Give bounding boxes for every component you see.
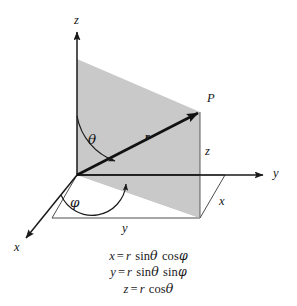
equation-z-arg1: θ xyxy=(166,281,174,296)
equation-z: z=r cosθ xyxy=(0,281,297,297)
equation-x-coef: r xyxy=(126,249,131,263)
equation-z-lhs: z xyxy=(124,282,129,296)
equation-y-arg1: θ xyxy=(151,264,159,279)
equation-y-fn1: sin xyxy=(135,265,151,279)
equation-z-coef: r xyxy=(140,282,145,296)
z-axis-label: z xyxy=(74,14,79,27)
point-p-label: P xyxy=(207,92,215,105)
z-component-label: z xyxy=(205,145,210,158)
equation-x-fn2: cos xyxy=(161,249,179,263)
equation-x-arg2: φ xyxy=(179,248,188,263)
equation-y-fn2: sin xyxy=(162,265,178,279)
equation-x-equals: = xyxy=(115,249,126,263)
equation-y: y=r sinθ sinφ xyxy=(0,264,297,280)
equation-z-equals: = xyxy=(129,282,140,296)
y-axis-label: y xyxy=(273,167,279,180)
equation-x-fn1: sin xyxy=(134,249,150,263)
equation-y-coef: r xyxy=(127,265,132,279)
equation-z-fn1: cos xyxy=(148,282,166,296)
equation-y-equals: = xyxy=(116,265,127,279)
theta-angle-label: θ xyxy=(88,133,96,147)
y-component-label: y xyxy=(122,222,128,235)
shaded-plane-lower xyxy=(77,175,200,218)
equation-x-arg1: θ xyxy=(150,248,158,263)
spherical-coordinates-figure: z y x P r θ φ z y x x=r sinθ cosφ y=r si… xyxy=(0,0,297,306)
equation-list: x=r sinθ cosφ y=r sinθ sinφ z=r cosθ xyxy=(0,248,297,297)
equation-y-arg2: φ xyxy=(178,264,187,279)
equation-x: x=r sinθ cosφ xyxy=(0,248,297,264)
x-component-label: x xyxy=(219,195,225,208)
phi-angle-label: φ xyxy=(70,196,79,210)
radius-label: r xyxy=(145,131,150,143)
equation-x-lhs: x xyxy=(109,249,115,263)
